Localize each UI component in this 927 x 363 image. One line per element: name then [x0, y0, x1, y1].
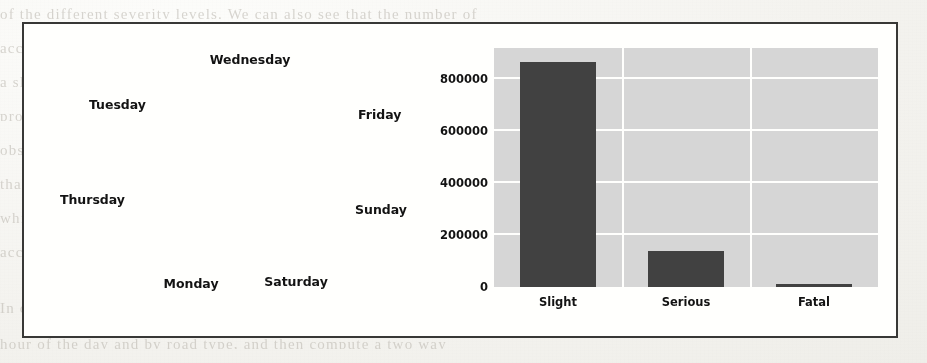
bar-serious [648, 251, 725, 287]
vertical-gridline [750, 48, 752, 287]
pie-chart-panel: 16.4%11.1%13.6%14.2%14.9%14.9%15.1% Wedn… [24, 24, 444, 336]
bar-chart-panel: 0200000400000600000800000 SlightSeriousF… [444, 24, 896, 336]
x-axis-tick-label-slight: Slight [539, 295, 577, 309]
y-axis-tick-label: 600000 [440, 124, 488, 138]
bar-slight [520, 62, 597, 287]
pie-category-label-wednesday: Wednesday [210, 52, 291, 67]
x-axis-tick-label-fatal: Fatal [798, 295, 830, 309]
pie-category-label-saturday: Saturday [264, 274, 328, 289]
figure-inner: 16.4%11.1%13.6%14.2%14.9%14.9%15.1% Wedn… [24, 24, 896, 336]
pie-category-label-monday: Monday [163, 276, 218, 291]
bar-fatal [776, 284, 853, 287]
figure-frame: 16.4%11.1%13.6%14.2%14.9%14.9%15.1% Wedn… [22, 22, 898, 338]
y-axis-tick-label: 400000 [440, 176, 488, 190]
pie-slice-percent-label: 15.1% [24, 24, 44, 27]
bleed-text-line: of the different severity levels. We can… [0, 6, 927, 19]
pie-category-label-tuesday: Tuesday [89, 97, 146, 112]
pie-category-label-friday: Friday [358, 107, 401, 122]
vertical-gridline [622, 48, 624, 287]
y-axis-tick-label: 0 [480, 280, 488, 294]
y-axis-tick-label: 200000 [440, 228, 488, 242]
pie-chart-svg: 16.4%11.1%13.6%14.2%14.9%14.9%15.1% [24, 24, 444, 336]
pie-category-label-sunday: Sunday [355, 202, 407, 217]
x-axis-tick-label-serious: Serious [662, 295, 711, 309]
pie-category-label-thursday: Thursday [60, 192, 125, 207]
bar-chart-plot-area [494, 48, 878, 287]
y-axis-tick-label: 800000 [440, 72, 488, 86]
pie-percent-label-group: 16.4%11.1%13.6%14.2%14.9%14.9%15.1% [24, 24, 44, 27]
